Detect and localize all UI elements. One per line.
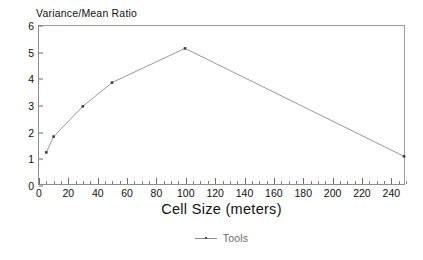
data-point-marker bbox=[403, 155, 406, 158]
x-tick-minor bbox=[237, 181, 238, 184]
x-tick-minor bbox=[134, 181, 135, 184]
x-tick-minor bbox=[83, 181, 84, 184]
y-tick-label: 6 bbox=[28, 21, 34, 32]
x-tick-label: 220 bbox=[353, 188, 371, 199]
x-tick-minor bbox=[384, 181, 385, 184]
x-tick-label: 0 bbox=[36, 188, 42, 199]
x-tick-minor bbox=[54, 181, 55, 184]
x-tick-minor bbox=[311, 181, 312, 184]
x-tick-label: 180 bbox=[294, 188, 312, 199]
x-tick-minor bbox=[281, 181, 282, 184]
y-tick-label: 3 bbox=[28, 101, 34, 112]
x-tick-minor bbox=[325, 181, 326, 184]
x-tick-minor bbox=[399, 181, 400, 184]
x-tick-minor bbox=[112, 181, 113, 184]
x-tick-major bbox=[245, 178, 246, 184]
y-tick-mark bbox=[39, 79, 43, 80]
y-tick-label: 2 bbox=[28, 127, 34, 138]
x-tick-minor bbox=[120, 181, 121, 184]
x-tick-major bbox=[39, 178, 40, 184]
x-tick-minor bbox=[171, 181, 172, 184]
x-tick-minor bbox=[318, 181, 319, 184]
x-tick-major bbox=[274, 178, 275, 184]
x-tick-label: 20 bbox=[63, 188, 75, 199]
x-tick-minor bbox=[289, 181, 290, 184]
x-tick-major bbox=[362, 178, 363, 184]
y-tick-mark bbox=[39, 26, 43, 27]
x-tick-minor bbox=[369, 181, 370, 184]
chart-legend: Tools bbox=[38, 232, 405, 244]
data-line bbox=[46, 48, 404, 156]
x-tick-label: 120 bbox=[206, 188, 224, 199]
y-tick-mark bbox=[39, 132, 43, 133]
x-tick-label: 240 bbox=[383, 188, 401, 199]
plot-area: 0123456020406080100120140160180200220240 bbox=[38, 25, 405, 185]
y-tick-mark bbox=[39, 159, 43, 160]
data-point-marker bbox=[45, 151, 48, 154]
x-tick-major bbox=[186, 178, 187, 184]
x-tick-minor bbox=[259, 181, 260, 184]
chart-figure: Variance/Mean Ratio 01234560204060801001… bbox=[0, 0, 423, 260]
x-tick-minor bbox=[296, 181, 297, 184]
x-tick-label: 80 bbox=[151, 188, 163, 199]
x-tick-minor bbox=[164, 181, 165, 184]
legend-item-label: Tools bbox=[223, 232, 249, 244]
series-line-tools bbox=[39, 26, 404, 184]
x-tick-minor bbox=[200, 181, 201, 184]
x-tick-minor bbox=[377, 181, 378, 184]
x-axis-title: Cell Size (meters) bbox=[38, 201, 405, 217]
x-tick-minor bbox=[340, 181, 341, 184]
line-marker-icon bbox=[195, 234, 217, 243]
x-tick-minor bbox=[230, 181, 231, 184]
x-tick-major bbox=[156, 178, 157, 184]
x-tick-minor bbox=[406, 181, 407, 184]
y-tick-mark bbox=[39, 52, 43, 53]
data-point-marker bbox=[52, 135, 55, 138]
y-tick-label: 0 bbox=[28, 181, 34, 192]
data-point-marker bbox=[111, 81, 114, 84]
x-tick-major bbox=[127, 178, 128, 184]
x-tick-label: 60 bbox=[121, 188, 133, 199]
x-tick-major bbox=[68, 178, 69, 184]
x-tick-major bbox=[98, 178, 99, 184]
x-tick-minor bbox=[46, 181, 47, 184]
y-tick-label: 1 bbox=[28, 154, 34, 165]
y-axis-title: Variance/Mean Ratio bbox=[36, 7, 137, 19]
x-tick-minor bbox=[208, 181, 209, 184]
x-tick-major bbox=[391, 178, 392, 184]
data-point-marker bbox=[184, 47, 187, 50]
x-tick-minor bbox=[347, 181, 348, 184]
x-tick-major bbox=[303, 178, 304, 184]
x-tick-minor bbox=[105, 181, 106, 184]
x-tick-minor bbox=[61, 181, 62, 184]
x-tick-minor bbox=[178, 181, 179, 184]
x-tick-major bbox=[333, 178, 334, 184]
y-tick-label: 4 bbox=[28, 74, 34, 85]
x-tick-minor bbox=[149, 181, 150, 184]
x-tick-minor bbox=[355, 181, 356, 184]
x-tick-label: 160 bbox=[265, 188, 283, 199]
x-tick-minor bbox=[90, 181, 91, 184]
x-tick-minor bbox=[267, 181, 268, 184]
x-tick-minor bbox=[193, 181, 194, 184]
data-point-marker bbox=[82, 105, 85, 108]
y-tick-label: 5 bbox=[28, 47, 34, 58]
x-tick-major bbox=[215, 178, 216, 184]
x-tick-minor bbox=[223, 181, 224, 184]
x-tick-label: 140 bbox=[236, 188, 254, 199]
x-tick-label: 100 bbox=[177, 188, 195, 199]
y-tick-mark bbox=[39, 106, 43, 107]
x-tick-label: 40 bbox=[92, 188, 104, 199]
x-tick-minor bbox=[252, 181, 253, 184]
x-tick-minor bbox=[76, 181, 77, 184]
x-tick-minor bbox=[142, 181, 143, 184]
x-tick-label: 200 bbox=[324, 188, 342, 199]
